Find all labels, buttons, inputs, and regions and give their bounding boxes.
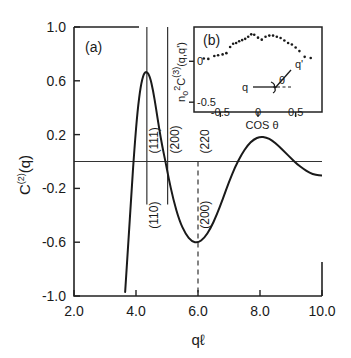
diagram-label-q: q — [242, 81, 248, 93]
inset-point — [272, 34, 275, 37]
y-tick-label: 0.2 — [47, 127, 67, 143]
inset-point — [276, 36, 279, 39]
inset-point — [298, 50, 301, 53]
y-tick-label: 1.0 — [47, 19, 67, 35]
inset-point — [253, 33, 256, 36]
miller-label-text: (200) — [168, 125, 182, 153]
inset-point — [250, 33, 253, 36]
x-tick-label: 8.0 — [250, 303, 270, 319]
x-tick-label: 4.0 — [126, 303, 146, 319]
miller-label-text: (200) — [198, 201, 212, 229]
inset-point — [294, 46, 297, 49]
panel-b-label: (b) — [203, 32, 220, 48]
inset-point — [235, 42, 238, 45]
diagram-label-theta: θ — [279, 74, 285, 86]
miller-label-below: (110) — [147, 202, 161, 229]
inset-point — [309, 57, 312, 60]
inset-x-tick-label: -0.5 — [211, 106, 230, 118]
y-tick-label: -0.2 — [42, 180, 66, 196]
inset-point — [279, 37, 282, 40]
inset-x-tick-label: 0 — [255, 106, 261, 118]
inset-point — [232, 42, 235, 45]
inset-point — [244, 38, 247, 41]
miller-label-text: (110) — [147, 202, 161, 229]
inset-point — [291, 43, 294, 46]
inset-point — [260, 38, 263, 41]
inset-point — [303, 56, 306, 59]
panel-a-label: (a) — [85, 39, 102, 55]
inset-point — [229, 46, 232, 49]
miller-label-above: (200) — [168, 125, 182, 153]
inset-y-tick-label: 0 — [197, 55, 203, 67]
inset-point — [264, 36, 267, 39]
inset-point — [257, 36, 260, 39]
x-tick-label: 2.0 — [64, 303, 84, 319]
inset-point — [283, 39, 286, 42]
y-axis-title-base: C — [16, 184, 33, 195]
inset-point — [207, 58, 210, 61]
y-tick-label: -0.6 — [42, 234, 66, 250]
inset-point — [213, 55, 216, 58]
scientific-figure: 1.00.60.2-0.2-0.6-1.0 2.04.06.08.010.0 (… — [0, 0, 351, 358]
miller-label-text: (111) — [147, 127, 161, 153]
inset-point — [221, 53, 224, 56]
x-tick-label: 6.0 — [188, 303, 208, 319]
y-tick-label: 0.6 — [47, 73, 67, 89]
inset-y-c: C — [175, 78, 187, 86]
inset-x-tick-labels: -0.500.5 — [211, 106, 303, 118]
miller-label-above: (111) — [147, 127, 161, 153]
y-axis-title-superscript: (2) — [16, 173, 26, 184]
figure-container: 1.00.60.2-0.2-0.6-1.0 2.04.06.08.010.0 (… — [0, 0, 351, 358]
inset-point — [287, 42, 290, 45]
inset-point — [225, 52, 228, 55]
inset-point — [241, 39, 244, 42]
inset-point — [268, 34, 271, 37]
y-axis-title-arg: (q) — [16, 155, 33, 173]
y-tick-label: -1.0 — [42, 288, 66, 304]
inset-x-tick-label: 0.5 — [288, 106, 303, 118]
inset-x-axis-title: COS θ — [245, 119, 278, 131]
inset-y-arg: (q,q') — [175, 42, 187, 67]
inset-y-c-sup: (3) — [171, 67, 181, 78]
inset-point — [247, 36, 250, 39]
x-tick-label: 10.0 — [308, 303, 335, 319]
miller-label-below: (200) — [198, 201, 212, 229]
diagram-label-q-prime: q' — [295, 58, 303, 70]
inset-point — [217, 54, 220, 57]
x-axis-title: qℓ — [191, 331, 204, 348]
inset-point — [238, 40, 241, 43]
